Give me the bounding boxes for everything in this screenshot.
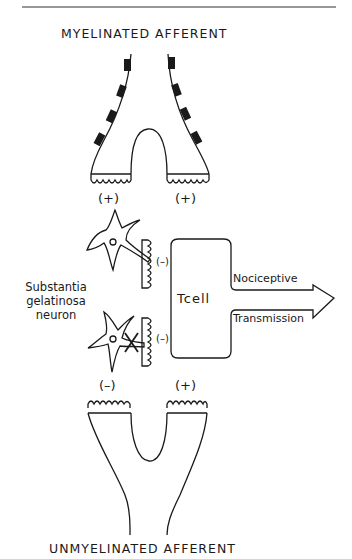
sign-sg-lower: (–) (156, 333, 169, 344)
sg-terminal-upper (142, 240, 151, 288)
nociceptive-label: Nociceptive (233, 272, 298, 285)
transmission-label: Transmission (233, 312, 304, 325)
sign-myelinated-right: (+) (175, 191, 196, 206)
unmyelinated-afferent-label: UNMYELINATED AFFERENT (49, 541, 236, 556)
sg-label-line-1: Substantia (18, 280, 94, 294)
sign-unmyelinated-right: (+) (175, 378, 196, 393)
sg-neuron-lower (88, 312, 144, 372)
sign-sg-upper: (–) (156, 256, 169, 267)
substantia-gelatinosa-label: Substantia gelatinosa neuron (18, 280, 94, 322)
sign-myelinated-left: (+) (98, 191, 119, 206)
sg-label-line-3: neuron (18, 308, 94, 322)
sg-label-line-2: gelatinosa (18, 294, 94, 308)
unmyelinated-afferent-shape (88, 401, 207, 535)
sign-unmyelinated-left: (–) (99, 378, 116, 393)
t-cell-label: Tcell (177, 291, 210, 306)
myelinated-afferent-label: MYELINATED AFFERENT (61, 26, 227, 41)
sg-terminal-lower (142, 318, 151, 366)
myelinated-afferent-shape (91, 54, 209, 183)
sg-neuron-upper (87, 210, 150, 270)
